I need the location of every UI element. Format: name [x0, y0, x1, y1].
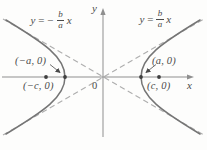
left-focus-point	[44, 75, 48, 79]
left-vertex-pointer-arrow-icon	[50, 65, 60, 73]
asymptote-left-equation: y = − b a x	[30, 10, 72, 31]
eq-left-fraction: b a	[57, 10, 65, 31]
hyperbola-figure: y = − b a x y = b a x y x 0 (−a, 0) (−c,…	[0, 0, 207, 150]
eq-left-numerator: b	[57, 10, 65, 20]
origin-label: 0	[92, 81, 97, 92]
eq-left-equals: =	[37, 15, 45, 26]
left-vertex-label: (−a, 0)	[15, 56, 46, 67]
eq-left-lhs: y	[30, 15, 36, 26]
left-vertex-point	[63, 75, 67, 79]
asymptote-right-equation: y = b a x	[139, 9, 172, 30]
eq-right-denominator: a	[156, 19, 164, 30]
left-focus-label: (−c, 0)	[23, 81, 54, 92]
eq-right-lhs: y	[139, 14, 145, 25]
eq-left-sign: −	[46, 15, 54, 26]
right-focus-label: (c, 0)	[147, 81, 170, 92]
right-vertex-point	[139, 75, 143, 79]
eq-right-equals: =	[146, 14, 154, 25]
right-vertex-label: (a, 0)	[152, 56, 176, 67]
y-axis-arrowhead-icon	[100, 8, 105, 15]
eq-right-variable: x	[166, 14, 172, 25]
right-focus-point	[157, 75, 161, 79]
eq-left-variable: x	[66, 15, 72, 26]
eq-left-denominator: a	[57, 20, 65, 31]
x-axis-label: x	[187, 80, 192, 91]
eq-right-fraction: b a	[156, 9, 164, 30]
y-axis-label: y	[92, 3, 97, 14]
eq-right-numerator: b	[156, 9, 164, 19]
